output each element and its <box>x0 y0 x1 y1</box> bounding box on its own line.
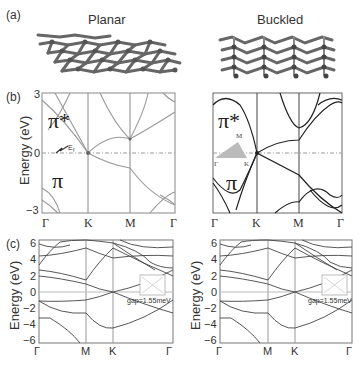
c-buckled-ytick-m2: −2 <box>204 302 217 314</box>
c-planar-xtick-gamma1: Γ <box>34 345 40 357</box>
c-planar-ytick-m4: −4 <box>23 318 36 330</box>
pi-label-buckled: π <box>226 170 237 195</box>
bz-gamma-label: Γ <box>214 160 218 168</box>
figure-canvas: 3 0 −3 Energy (eV) π* π E f Γ K M Γ M Γ … <box>0 0 363 365</box>
c-buckled-ytick-6: 6 <box>211 237 217 249</box>
c-planar-ytick-6: 6 <box>30 237 36 249</box>
b-planar-ytick-3: 3 <box>34 88 40 100</box>
fermi-arrow-icon <box>56 146 68 153</box>
c-buckled-ytick-4: 4 <box>211 253 217 265</box>
chart-c-buckled: gap=1.55meV 6 4 2 0 −2 −4 −6 Energy (eV)… <box>188 237 352 357</box>
b-buckled-xtick-k: K <box>252 216 261 230</box>
pi-star-label: π* <box>48 108 70 133</box>
c-buckled-ytick-m6: −6 <box>204 334 217 346</box>
b-planar-ytick-m3: −3 <box>26 204 39 216</box>
bz-k-label: K <box>244 160 249 168</box>
c-buckled-xtick-gamma2: Γ <box>346 345 352 357</box>
c-planar-xtick-m: M <box>81 345 90 357</box>
c-buckled-xtick-m: M <box>263 345 272 357</box>
c-buckled-ytick-m4: −4 <box>204 318 217 330</box>
b-planar-xtick-k: K <box>84 216 93 230</box>
planar-lattice-image <box>38 35 180 72</box>
c-planar-ytick-m2: −2 <box>23 302 36 314</box>
b-planar-xtick-m: M <box>125 216 136 230</box>
c-planar-ytick-4: 4 <box>30 253 36 265</box>
c-planar-ylabel: Energy (eV) <box>7 261 22 330</box>
b-planar-xtick-gamma2: Γ <box>170 216 177 230</box>
c-buckled-ylabel: Energy (eV) <box>188 261 203 330</box>
c-buckled-xtick-k: K <box>291 345 299 357</box>
b-planar-xtick-gamma1: Γ <box>42 216 49 230</box>
c-planar-ytick-0: 0 <box>30 286 36 298</box>
c-planar-xtick-gamma2: Γ <box>166 345 172 357</box>
gap-annotation-buckled: gap=1.55meV <box>308 297 352 305</box>
c-planar-xtick-k: K <box>109 345 117 357</box>
bz-m-label: M <box>236 132 243 140</box>
pi-star-label-buckled: π* <box>218 108 240 133</box>
b-buckled-xtick-gamma2: Γ <box>337 216 344 230</box>
pi-label: π <box>52 168 63 193</box>
b-planar-ylabel: Energy (eV) <box>17 116 32 185</box>
chart-c-planar: gap=1.55meV 6 4 2 0 −2 −4 −6 Energy (eV)… <box>7 237 173 357</box>
chart-b-planar: 3 0 −3 Energy (eV) π* π E f Γ K M Γ <box>17 88 177 230</box>
c-buckled-ytick-2: 2 <box>211 270 217 282</box>
fermi-sub: f <box>73 147 75 153</box>
chart-b-buckled: M Γ K π* π Γ K M Γ <box>211 93 344 230</box>
gap-annotation: gap=1.55meV <box>127 297 171 305</box>
brillouin-zone-icon <box>215 142 247 158</box>
c-buckled-xtick-gamma1: Γ <box>216 345 222 357</box>
b-planar-ytick-0: 0 <box>34 147 40 159</box>
b-buckled-xtick-m: M <box>293 216 304 230</box>
buckled-lattice-image <box>220 37 334 75</box>
b-buckled-xtick-gamma1: Γ <box>211 216 218 230</box>
c-planar-ytick-2: 2 <box>30 270 36 282</box>
c-buckled-ytick-0: 0 <box>211 286 217 298</box>
